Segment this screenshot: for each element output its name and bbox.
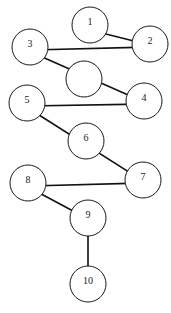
node-8[interactable]: 8: [10, 165, 46, 201]
node-7[interactable]: 7: [125, 162, 161, 198]
node-label: 3: [28, 38, 33, 49]
node-label: 10: [83, 275, 93, 286]
node-label: 7: [141, 171, 146, 182]
node-unlabeled[interactable]: [66, 61, 102, 97]
node-9[interactable]: 9: [70, 200, 106, 236]
node-graph: 12345678910: [0, 0, 171, 313]
node-5[interactable]: 5: [9, 85, 45, 121]
node-circle[interactable]: [66, 61, 102, 97]
node-2[interactable]: 2: [132, 26, 168, 62]
node-10[interactable]: 10: [70, 266, 106, 302]
diagram-canvas: 12345678910: [0, 0, 171, 313]
node-label: 1: [88, 16, 93, 27]
node-4[interactable]: 4: [126, 83, 162, 119]
node-3[interactable]: 3: [12, 29, 48, 65]
node-label: 6: [84, 132, 89, 143]
edge-line: [32, 47, 146, 50]
node-label: 2: [148, 35, 153, 46]
node-1[interactable]: 1: [72, 7, 108, 43]
node-6[interactable]: 6: [68, 123, 104, 159]
node-label: 9: [86, 209, 91, 220]
node-label: 8: [26, 174, 31, 185]
node-label: 5: [25, 94, 30, 105]
node-label: 4: [142, 92, 147, 103]
